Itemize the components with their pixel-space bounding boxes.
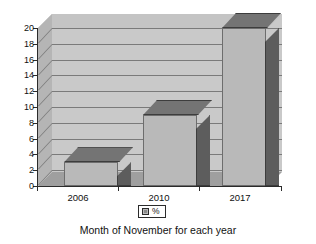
series-swatch-icon: [142, 208, 149, 215]
bar-chart: 20 18 16 14 12 10 8 6 4 2 0: [0, 0, 316, 244]
bar-2006[interactable]: [64, 14, 118, 186]
x-tick-start: [37, 186, 38, 191]
y-axis-label-0: 0: [29, 182, 34, 191]
y-axis-label-6: 6: [29, 134, 34, 143]
y-axis-label-20: 20: [24, 24, 34, 33]
y-axis-label-2: 2: [29, 166, 34, 175]
y-axis-label-8: 8: [29, 118, 34, 127]
x-tick-1: [118, 186, 119, 191]
bar-2006-front-face: [64, 162, 118, 186]
x-tick-2: [199, 186, 200, 191]
bar-2010[interactable]: [143, 14, 197, 186]
y-axis-label-16: 16: [24, 55, 34, 64]
bar-2017-front-face: [222, 28, 266, 186]
y-axis-label-14: 14: [24, 71, 34, 80]
bar-2017-side-face: [265, 28, 280, 186]
x-axis-label-2006: 2006: [67, 192, 88, 203]
x-axis-line: [37, 186, 282, 187]
y-axis-label-12: 12: [24, 87, 34, 96]
plot-area: 20 18 16 14 12 10 8 6 4 2 0: [38, 14, 282, 186]
chart-legend[interactable]: %: [138, 205, 166, 218]
x-axis-label-2010: 2010: [148, 192, 169, 203]
x-tick-end: [281, 186, 282, 191]
bar-2017[interactable]: [222, 14, 266, 186]
x-axis-label-2017: 2017: [229, 192, 250, 203]
bar-2010-front-face: [143, 115, 197, 186]
legend-item-label: %: [152, 207, 160, 216]
x-axis-title: Month of November for each year: [0, 224, 316, 237]
y-axis-label-18: 18: [24, 39, 34, 48]
y-axis-label-4: 4: [29, 150, 34, 159]
y-axis-label-10: 10: [24, 103, 34, 112]
